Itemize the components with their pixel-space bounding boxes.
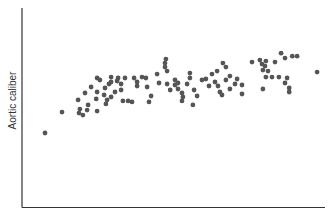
data-point	[165, 69, 170, 74]
data-point	[279, 51, 284, 56]
data-point	[220, 93, 225, 98]
data-point	[283, 56, 288, 61]
data-point	[113, 90, 118, 95]
data-point	[261, 87, 266, 92]
data-point	[109, 75, 114, 80]
data-point	[104, 102, 109, 107]
data-point	[180, 91, 185, 96]
data-point	[78, 107, 83, 112]
data-point	[261, 68, 266, 73]
data-point	[85, 108, 90, 113]
data-point	[119, 88, 124, 93]
data-point	[176, 81, 181, 86]
data-point	[135, 80, 140, 85]
data-point	[147, 100, 152, 105]
data-point	[89, 85, 94, 90]
data-point	[216, 84, 221, 89]
data-point	[102, 93, 107, 98]
plot-area	[0, 0, 329, 214]
data-point	[98, 78, 103, 83]
data-point	[116, 76, 121, 81]
data-point	[224, 78, 229, 83]
data-point	[270, 75, 275, 80]
data-point	[213, 80, 218, 85]
data-point	[228, 74, 233, 79]
data-point	[264, 75, 269, 80]
data-point	[233, 82, 238, 87]
data-point	[235, 77, 240, 82]
data-point	[192, 88, 197, 93]
data-point	[195, 94, 200, 99]
data-point	[164, 57, 169, 62]
data-point	[191, 103, 196, 108]
data-point	[290, 54, 295, 59]
data-point	[287, 90, 292, 95]
data-point	[176, 87, 181, 92]
data-point	[103, 86, 108, 91]
data-point	[250, 60, 255, 65]
y-axis-label: Aortic caliber	[7, 56, 18, 146]
data-point	[180, 99, 185, 104]
data-point	[155, 72, 160, 77]
data-point	[109, 80, 114, 85]
data-point	[123, 76, 128, 81]
data-point	[295, 54, 300, 59]
data-point	[60, 110, 65, 115]
data-point	[283, 81, 288, 86]
data-point	[315, 70, 320, 75]
data-point	[95, 109, 100, 114]
data-point	[228, 87, 233, 92]
data-point	[266, 69, 271, 74]
data-point	[130, 100, 135, 105]
data-point	[207, 84, 212, 89]
data-point	[221, 61, 226, 66]
data-point	[121, 99, 126, 104]
data-point	[165, 82, 170, 87]
data-point	[185, 82, 190, 87]
data-point	[204, 77, 209, 82]
data-point	[145, 85, 150, 90]
data-point	[83, 91, 88, 96]
data-points	[43, 51, 320, 136]
data-point	[168, 88, 173, 93]
data-point	[273, 60, 278, 65]
data-point	[264, 59, 269, 64]
data-point	[109, 95, 114, 100]
data-point	[157, 81, 162, 86]
data-point	[144, 76, 149, 81]
data-point	[149, 94, 154, 99]
data-point	[224, 65, 229, 70]
data-point	[188, 76, 193, 81]
data-point	[163, 61, 168, 66]
data-point	[240, 83, 245, 88]
data-point	[240, 92, 245, 97]
data-point	[215, 69, 220, 74]
data-point	[210, 72, 215, 77]
data-point	[277, 75, 282, 80]
data-point	[81, 113, 86, 118]
data-point	[132, 76, 137, 81]
data-point	[94, 97, 99, 102]
data-point	[188, 71, 193, 76]
data-point	[285, 76, 290, 81]
data-point	[95, 90, 100, 95]
data-point	[76, 98, 81, 103]
data-point	[86, 103, 91, 108]
data-point	[119, 82, 124, 87]
scatter-chart: Aortic caliber	[0, 0, 329, 214]
data-point	[43, 131, 48, 136]
